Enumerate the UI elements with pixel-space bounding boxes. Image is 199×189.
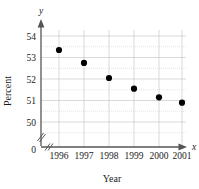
scatter-chart: 54 53 52 51 50 0 1996 1997 1998 1999 200… (0, 0, 199, 189)
data-point-1999 (131, 86, 137, 92)
x-axis (41, 144, 187, 151)
y-tick-label-51: 51 (27, 96, 37, 106)
x-tick-label-1998: 1998 (100, 151, 119, 161)
x-tick-label-1996: 1996 (50, 151, 69, 161)
vertical-gridlines (59, 30, 182, 147)
origin-label: 0 (31, 145, 36, 155)
data-point-1996 (56, 47, 62, 53)
horizontal-gridlines (41, 36, 186, 122)
horizontal-minor-gridlines (41, 47, 186, 133)
y-tick-labels: 54 53 52 51 50 0 (27, 32, 37, 156)
data-points (56, 47, 185, 106)
data-point-2001 (179, 100, 185, 106)
x-tick-label-2000: 2000 (150, 151, 169, 161)
data-point-2000 (156, 94, 162, 100)
y-tick-label-50: 50 (27, 118, 37, 128)
y-tick-label-53: 53 (27, 53, 37, 63)
y-tick-label-52: 52 (27, 75, 37, 85)
x-axis-arrowhead (179, 144, 188, 151)
x-tick-label-2001: 2001 (173, 151, 192, 161)
x-tick-labels: 1996 1997 1998 1999 2000 2001 (50, 151, 192, 161)
data-point-1997 (81, 60, 87, 66)
data-point-1998 (106, 75, 112, 81)
x-tick-label-1999: 1999 (125, 151, 144, 161)
chart-canvas: 54 53 52 51 50 0 1996 1997 1998 1999 200… (0, 0, 199, 189)
y-axis-title: Percent (2, 76, 13, 106)
x-tick-label-1997: 1997 (75, 151, 94, 161)
y-tick-label-54: 54 (27, 32, 37, 42)
y-axis-arrowhead (38, 19, 45, 28)
y-axis (38, 19, 45, 146)
x-axis-title: Year (103, 173, 122, 184)
y-axis-letter: y (38, 6, 44, 16)
x-axis-letter: x (191, 142, 197, 152)
